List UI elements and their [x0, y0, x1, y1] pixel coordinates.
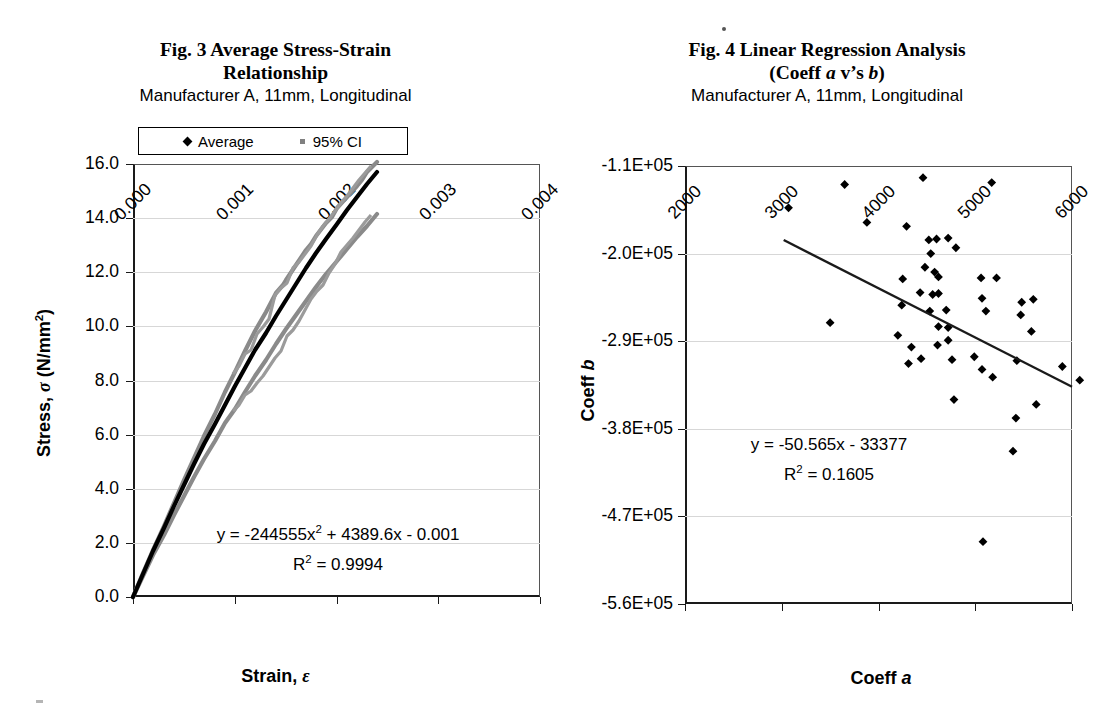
xtick-2000 [685, 604, 686, 611]
scatter-point [1075, 376, 1084, 385]
scatter-point [988, 373, 997, 382]
figure-4-equation: y = -50.565x - 33377 [699, 432, 959, 457]
scatter-point [921, 263, 930, 272]
figure-4-subtitle: Manufacturer A, 11mm, Longitudinal [551, 85, 1103, 106]
scatter-points-group [784, 173, 1084, 546]
scatter-point [826, 318, 835, 327]
figure-4-plot-area: -1.1E+05 -2.0E+05 -2.9E+05 -3.8E+05 -4.7… [685, 166, 1072, 604]
ytick-8 [126, 381, 133, 382]
coeff-b-symbol: b [578, 360, 598, 371]
scatter-point [970, 352, 979, 361]
ytick-label-56e05: -5.6E+05 [565, 593, 673, 614]
figure-4-xaxis-title: Coeff a [681, 668, 1081, 689]
scatter-point [944, 336, 953, 345]
scatter-point [902, 222, 911, 231]
xtick-3000 [782, 604, 783, 611]
scatter-point [917, 354, 926, 363]
figure-3-title-block: Fig. 3 Average Stress-Strain Relationshi… [0, 38, 551, 106]
figure-3-subtitle: Manufacturer A, 11mm, Longitudinal [0, 85, 551, 106]
xtick-0002 [337, 597, 338, 604]
scatter-point [862, 218, 871, 227]
scatter-point [950, 395, 959, 404]
scatter-point [1058, 362, 1067, 371]
scatter-point [907, 343, 916, 352]
xtick-6000 [1072, 604, 1073, 611]
scatter-point [1029, 295, 1038, 304]
figure-4-yaxis-title: Coeff b [578, 306, 599, 476]
coeff-a-symbol: a [901, 668, 911, 688]
scatter-point [932, 235, 941, 244]
figure-3-yaxis-title: Stress, σ (N/mm2) [33, 238, 55, 528]
figure-4-title-line2: (Coeff a v’s b) [551, 61, 1103, 84]
scatter-point [934, 322, 943, 331]
scatter-point [919, 173, 928, 182]
ytick-6 [126, 435, 133, 436]
ytick-56e05 [678, 604, 685, 605]
scan-speck [36, 700, 43, 703]
ytick-label-4: 4.0 [61, 478, 119, 499]
ytick-20e05 [678, 254, 685, 255]
scan-speck [722, 27, 726, 31]
scatter-point [1032, 400, 1041, 409]
figure-3-annotation: y = -244555x2 + 4389.6x - 0.001 R2 = 0.9… [163, 517, 513, 576]
scatter-point [978, 365, 987, 374]
figure-3-title-line2: Relationship [0, 61, 551, 84]
ytick-47e05 [678, 516, 685, 517]
ytick-16 [126, 164, 133, 165]
scatter-point [977, 274, 986, 283]
scatter-point [840, 180, 849, 189]
diamond-marker-icon [183, 136, 193, 146]
ytick-label-10: 10.0 [61, 315, 119, 336]
figure-4-linear-regression: Fig. 4 Linear Regression Analysis (Coeff… [551, 0, 1103, 717]
legend-label-ci: 95% CI [313, 133, 362, 150]
ci-lower-detail [233, 215, 371, 411]
ytick-11e05 [678, 166, 685, 167]
scatter-point [981, 307, 990, 316]
xtick-0003 [438, 597, 439, 604]
legend-item-ci: 95% CI [300, 133, 362, 150]
figure-3-title-line1: Fig. 3 Average Stress-Strain [0, 38, 551, 61]
square-marker-icon [300, 139, 305, 144]
figure-4-scatter-layer [685, 166, 1072, 604]
scatter-point [934, 289, 943, 298]
scatter-point [948, 355, 957, 364]
xtick-0004 [540, 597, 541, 604]
ci-upper-detail [233, 166, 371, 374]
ytick-38e05 [678, 429, 685, 430]
scatter-point [904, 359, 913, 368]
ytick-label-16: 16.0 [61, 153, 119, 174]
scatter-point [1027, 327, 1036, 336]
scatter-point [933, 341, 942, 350]
figure-3-equation: y = -244555x2 + 4389.6x - 0.001 [163, 517, 513, 547]
figure-page: Fig. 3 Average Stress-Strain Relationshi… [0, 0, 1103, 717]
ytick-label-8: 8.0 [61, 370, 119, 391]
figure-4-title-line1: Fig. 4 Linear Regression Analysis [551, 38, 1103, 61]
ytick-label-6: 6.0 [61, 424, 119, 445]
scatter-point [942, 306, 951, 315]
scatter-point [893, 331, 902, 340]
epsilon-symbol: ε [302, 666, 309, 686]
ytick-4 [126, 489, 133, 490]
xtick-5000 [975, 604, 976, 611]
figure-3-xaxis-title: Strain, ε [0, 666, 551, 687]
scatter-point [944, 234, 953, 243]
trendline [784, 240, 1072, 387]
ytick-label-47e05: -4.7E+05 [565, 505, 673, 526]
ytick-label-12: 12.0 [61, 261, 119, 282]
sigma-symbol: σ [34, 382, 54, 392]
scatter-point [924, 236, 933, 245]
scatter-point [926, 249, 935, 258]
scatter-point [784, 203, 793, 212]
scatter-point [979, 537, 988, 546]
figure-4-r2: R2 = 0.1605 [699, 457, 959, 487]
scatter-point [916, 288, 925, 297]
ytick-2 [126, 543, 133, 544]
scatter-point [1011, 414, 1020, 423]
figure-4-title-block: Fig. 4 Linear Regression Analysis (Coeff… [551, 38, 1103, 106]
scatter-point [987, 178, 996, 187]
ytick-label-11e05: -1.1E+05 [565, 155, 673, 176]
figure-4-annotation: y = -50.565x - 33377 R2 = 0.1605 [699, 432, 959, 487]
ytick-10 [126, 326, 133, 327]
figure-3-legend: Average 95% CI [138, 127, 408, 155]
ytick-label-2: 2.0 [61, 532, 119, 553]
